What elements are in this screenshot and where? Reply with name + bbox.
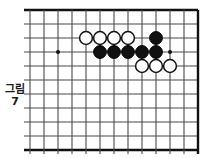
white-stone [94,32,107,45]
white-stone [80,32,93,45]
white-stone [164,60,177,73]
go-figure: 그림 7 [0,0,212,158]
black-stone [122,46,135,59]
figure-caption-text: 그림 7 [5,84,25,107]
black-stone [94,46,107,59]
star-point [168,50,172,54]
go-board-canvas [24,4,210,154]
white-stone [150,60,163,73]
black-stone [108,46,121,59]
star-point [56,50,60,54]
white-stone [136,60,149,73]
black-stone [136,46,149,59]
white-stone [122,32,135,45]
go-board [24,4,210,154]
white-stone [108,32,121,45]
black-stone [150,46,163,59]
black-stone [150,32,163,45]
